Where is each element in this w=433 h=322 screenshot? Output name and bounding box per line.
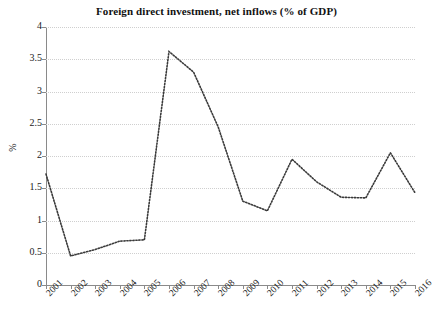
- y-tick-mark: [42, 92, 46, 93]
- y-tick-label: 0: [6, 278, 42, 289]
- y-tick-label: 0.5: [6, 246, 42, 257]
- y-tick-label: 3: [6, 85, 42, 96]
- y-tick-label: 1.5: [6, 181, 42, 192]
- y-tick-label: 1: [6, 214, 42, 225]
- series-polyline: [46, 52, 415, 256]
- y-axis-tick-labels: 00.511.522.533.54: [0, 0, 42, 322]
- chart-container: Foreign direct investment, net inflows (…: [0, 0, 433, 322]
- y-tick-mark: [42, 188, 46, 189]
- series-line-fdi: [46, 27, 415, 285]
- y-tick-label: 4: [6, 20, 42, 31]
- y-tick-label: 3.5: [6, 52, 42, 63]
- y-tick-mark: [42, 27, 46, 28]
- y-tick-mark: [42, 253, 46, 254]
- y-tick-label: 2.5: [6, 117, 42, 128]
- chart-title: Foreign direct investment, net inflows (…: [0, 5, 433, 17]
- y-tick-mark: [42, 156, 46, 157]
- y-tick-mark: [42, 285, 46, 286]
- y-tick-mark: [42, 59, 46, 60]
- x-tick-label: 2016: [413, 278, 433, 299]
- plot-area: [46, 27, 415, 285]
- y-tick-mark: [42, 221, 46, 222]
- y-tick-label: 2: [6, 149, 42, 160]
- y-tick-mark: [42, 124, 46, 125]
